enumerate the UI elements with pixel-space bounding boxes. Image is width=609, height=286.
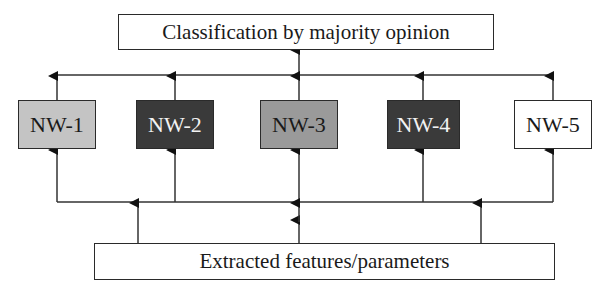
network-label: NW-3	[272, 112, 326, 138]
classification-label: Classification by majority opinion	[162, 20, 450, 45]
network-box-3: NW-3	[260, 100, 338, 149]
network-label: NW-4	[397, 112, 451, 138]
network-box-1: NW-1	[18, 100, 96, 149]
features-label: Extracted features/parameters	[199, 249, 449, 274]
network-label: NW-1	[30, 112, 84, 138]
network-box-5: NW-5	[514, 100, 592, 149]
classification-box: Classification by majority opinion	[118, 14, 494, 50]
network-label: NW-5	[526, 112, 580, 138]
network-label: NW-2	[148, 112, 202, 138]
network-box-4: NW-4	[387, 100, 460, 149]
network-box-2: NW-2	[136, 100, 214, 149]
features-box: Extracted features/parameters	[94, 243, 555, 280]
